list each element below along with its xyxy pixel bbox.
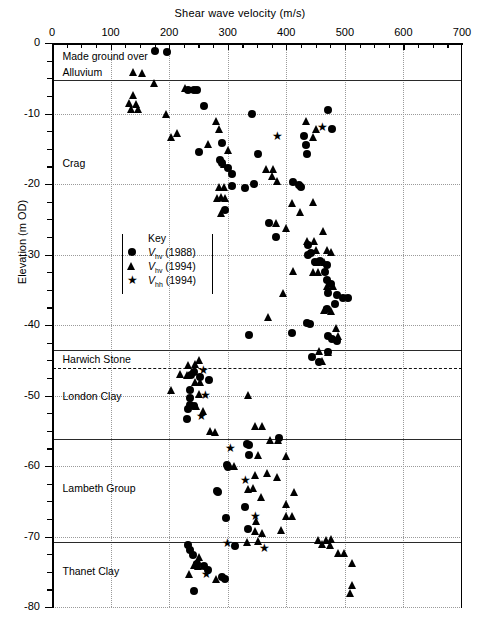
data-point-triangle xyxy=(314,268,322,276)
data-point-triangle xyxy=(273,473,281,481)
data-point-circle xyxy=(245,331,253,339)
legend-entry-label: Vhh (1994) xyxy=(148,274,196,288)
data-point-triangle xyxy=(243,538,251,546)
data-point-triangle xyxy=(277,526,285,534)
y-tick-minor xyxy=(47,307,52,308)
data-point-triangle xyxy=(263,469,271,477)
strat-label: Alluvium xyxy=(63,66,103,78)
data-point-triangle xyxy=(215,125,223,133)
data-point-circle xyxy=(272,233,280,241)
y-tick-minor xyxy=(47,589,52,590)
data-point-triangle xyxy=(196,378,204,386)
data-point-triangle xyxy=(318,540,326,548)
axis-spine-right xyxy=(461,43,462,608)
data-point-star: ★ xyxy=(250,511,261,522)
data-point-triangle xyxy=(212,117,220,125)
y-tick-label: -50 xyxy=(6,389,40,401)
x-tick-minor xyxy=(433,43,434,48)
y-tick-label: -30 xyxy=(6,248,40,260)
data-point-triangle xyxy=(309,198,317,206)
x-tick-minor xyxy=(96,43,97,48)
data-point-circle xyxy=(302,141,310,149)
x-tick-minor xyxy=(360,43,361,48)
horizontal-gridline xyxy=(53,466,462,467)
data-point-triangle xyxy=(329,282,337,290)
y-tick-major xyxy=(45,114,52,115)
data-point-circle xyxy=(163,48,171,56)
x-tick-minor xyxy=(213,43,214,48)
data-point-triangle xyxy=(296,208,304,216)
data-point-triangle xyxy=(312,246,320,254)
data-point-triangle xyxy=(244,391,252,399)
data-point-circle xyxy=(321,268,329,276)
data-point-triangle xyxy=(288,512,296,520)
data-point-triangle xyxy=(348,559,356,567)
data-point-star: ★ xyxy=(201,569,212,580)
strat-label: Crag xyxy=(63,157,86,169)
data-point-circle xyxy=(228,182,236,190)
data-point-circle xyxy=(241,184,249,192)
data-point-triangle xyxy=(213,194,221,202)
x-tick-minor xyxy=(125,43,126,48)
legend-entry-label: Vhv (1988) xyxy=(148,246,196,260)
legend-marker-circle xyxy=(126,246,140,258)
axis-spine-left xyxy=(52,43,54,608)
data-point-triangle xyxy=(282,500,290,508)
y-tick-minor xyxy=(47,272,52,273)
data-point-circle xyxy=(303,150,311,158)
data-point-circle xyxy=(245,441,253,449)
y-tick-label: -80 xyxy=(6,600,40,612)
data-point-triangle xyxy=(319,227,327,235)
data-point-triangle xyxy=(258,422,266,430)
strat-boundary-solid xyxy=(53,80,462,81)
x-tick-minor xyxy=(272,43,273,48)
x-tick-label: 600 xyxy=(383,26,423,38)
strat-label: Lambeth Group xyxy=(63,482,136,494)
legend-marker-glyph: ★ xyxy=(127,275,138,286)
data-point-circle xyxy=(248,110,256,118)
legend-marker-star: ★ xyxy=(126,274,140,286)
data-point-circle xyxy=(344,294,352,302)
y-tick-minor xyxy=(47,219,52,220)
data-point-triangle xyxy=(220,160,228,168)
data-point-circle xyxy=(324,106,332,114)
data-point-circle xyxy=(328,125,336,133)
data-point-triangle xyxy=(129,68,137,76)
y-tick-minor xyxy=(47,448,52,449)
y-tick-major xyxy=(45,184,52,185)
data-point-triangle xyxy=(326,541,334,549)
x-tick-minor xyxy=(257,43,258,48)
data-point-circle xyxy=(200,102,208,110)
y-tick-minor xyxy=(47,149,52,150)
y-tick-minor xyxy=(47,501,52,502)
x-tick-major xyxy=(403,43,404,50)
y-tick-major xyxy=(45,537,52,538)
y-tick-minor xyxy=(47,431,52,432)
data-point-triangle xyxy=(185,570,193,578)
y-tick-label: -60 xyxy=(6,459,40,471)
data-point-star: ★ xyxy=(240,475,251,486)
y-tick-minor xyxy=(47,202,52,203)
data-point-triangle xyxy=(309,133,317,141)
data-point-triangle xyxy=(181,84,189,92)
data-point-triangle xyxy=(289,267,297,275)
data-point-triangle xyxy=(221,194,229,202)
y-tick-label: -40 xyxy=(6,318,40,330)
strat-label: London Clay xyxy=(63,390,122,402)
data-point-triangle xyxy=(318,357,326,365)
legend-bracket-left xyxy=(122,234,123,294)
y-tick-minor xyxy=(47,131,52,132)
data-point-triangle xyxy=(230,462,238,470)
legend: Key Vhv (1988)Vhv (1994)★Vhh (1994) xyxy=(122,232,214,296)
y-tick-minor xyxy=(47,290,52,291)
y-tick-label: -20 xyxy=(6,177,40,189)
y-tick-major xyxy=(45,255,52,256)
data-point-triangle xyxy=(315,347,323,355)
data-point-triangle xyxy=(334,332,342,340)
y-tick-minor xyxy=(47,61,52,62)
data-point-triangle xyxy=(162,110,170,118)
data-point-triangle xyxy=(290,488,298,496)
data-point-circle xyxy=(228,170,236,178)
legend-title: Key xyxy=(148,232,166,244)
x-tick-label: 400 xyxy=(266,26,306,38)
